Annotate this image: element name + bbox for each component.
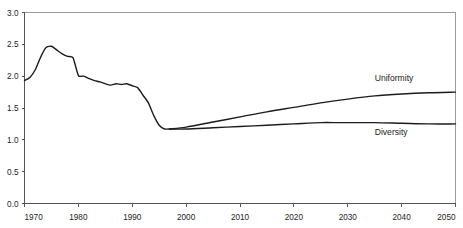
- y-tick-label: 0.0: [7, 200, 19, 209]
- x-tick-label: 2020: [285, 213, 304, 222]
- x-tick-label: 2010: [231, 213, 250, 222]
- chart-container: 0.00.51.01.52.02.53.0 197019801990200020…: [0, 0, 463, 228]
- x-tick-label: 1970: [25, 213, 44, 222]
- y-tick-label: 2.0: [7, 72, 19, 81]
- x-tick-label: 2040: [393, 213, 412, 222]
- series-annotations: UniformityDiversity: [375, 73, 414, 138]
- y-axis-ticks: 0.00.51.01.52.02.53.0: [7, 9, 24, 209]
- x-tick-label: 1990: [123, 213, 142, 222]
- line-chart-plot: 0.00.51.01.52.02.53.0 197019801990200020…: [0, 0, 463, 228]
- x-tick-label: 2050: [437, 213, 456, 222]
- series-line-historical: [25, 46, 170, 129]
- y-tick-label: 2.5: [7, 40, 19, 49]
- x-axis-ticks: 197019801990200020102020203020402050: [25, 204, 456, 222]
- x-tick-label: 2000: [177, 213, 196, 222]
- series-paths: [25, 46, 456, 129]
- y-tick-label: 1.0: [7, 136, 19, 145]
- series-line-diversity: [170, 123, 456, 130]
- x-tick-label: 1980: [69, 213, 88, 222]
- y-tick-label: 1.5: [7, 104, 19, 113]
- y-tick-label: 3.0: [7, 9, 19, 18]
- y-tick-label: 0.5: [7, 168, 19, 177]
- series-annotation-uniformity: Uniformity: [375, 73, 414, 83]
- x-tick-label: 2030: [339, 213, 358, 222]
- series-annotation-diversity: Diversity: [375, 127, 409, 137]
